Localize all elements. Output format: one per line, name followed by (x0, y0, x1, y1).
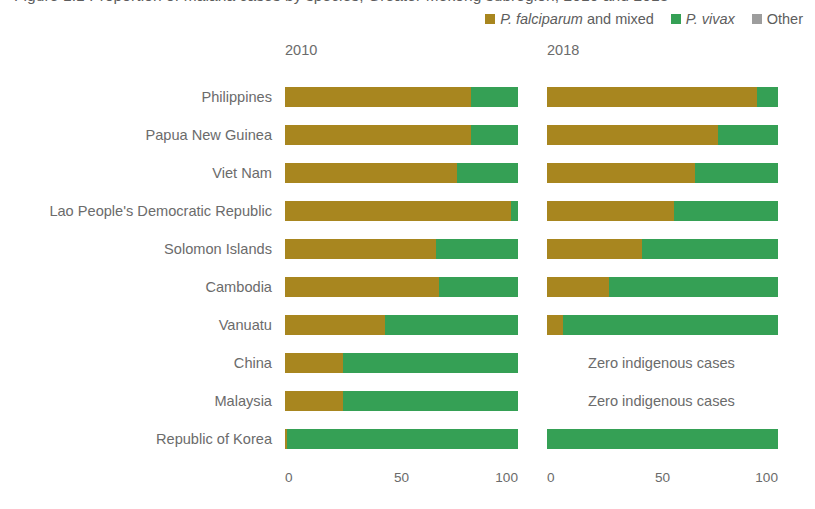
bar-segment-falciparum (547, 125, 718, 145)
bar-segment-vivax (287, 429, 518, 449)
stacked-bar-2018[interactable] (547, 429, 778, 449)
stacked-bar-2018[interactable] (547, 277, 778, 297)
bar-segment-falciparum (547, 239, 642, 259)
bar-segment-vivax (547, 429, 778, 449)
bar-segment-vivax (471, 87, 518, 107)
legend-item-other[interactable]: Other (752, 12, 803, 27)
legend-label-other: Other (767, 12, 803, 27)
bar-segment-falciparum (547, 163, 695, 183)
chart-row: Papua New Guinea (0, 116, 815, 154)
bar-segment-vivax (343, 391, 518, 411)
category-label: China (0, 344, 272, 382)
bar-segment-falciparum (285, 163, 457, 183)
legend-label-falciparum: P. falciparum and mixed (500, 12, 654, 27)
panel-year-2010: 2010 (285, 42, 317, 58)
bar-segment-vivax (674, 201, 778, 221)
stacked-bar-2018[interactable] (547, 239, 778, 259)
bar-segment-vivax (385, 315, 518, 335)
chart-row: Philippines (0, 78, 815, 116)
stacked-bar-2010[interactable] (285, 315, 518, 335)
x-axis-tick-0: 0 (285, 470, 293, 485)
bar-segment-falciparum (547, 277, 609, 297)
bar-segment-vivax (609, 277, 778, 297)
stacked-bar-2018[interactable] (547, 163, 778, 183)
stacked-bar-2018[interactable] (547, 87, 778, 107)
bar-segment-falciparum (285, 277, 439, 297)
bar-segment-falciparum (285, 125, 471, 145)
category-label: Philippines (0, 78, 272, 116)
bar-segment-falciparum (285, 353, 343, 373)
legend-swatch-falciparum-icon (485, 14, 495, 24)
bar-segment-falciparum (547, 201, 674, 221)
zero-cases-note: Zero indigenous cases (588, 391, 735, 411)
bar-segment-vivax (439, 277, 518, 297)
stacked-bar-2010[interactable] (285, 125, 518, 145)
x-axis-tick-50: 50 (655, 470, 670, 485)
chart-row: MalaysiaZero indigenous cases (0, 382, 815, 420)
legend-item-falciparum[interactable]: P. falciparum and mixed (485, 12, 654, 27)
category-label: Papua New Guinea (0, 116, 272, 154)
x-axis-2010: 050100 (285, 470, 518, 490)
stacked-bar-2018[interactable] (547, 315, 778, 335)
bar-segment-vivax (563, 315, 778, 335)
category-label: Vanuatu (0, 306, 272, 344)
stacked-bar-2010[interactable] (285, 277, 518, 297)
chart-row: Vanuatu (0, 306, 815, 344)
legend-item-vivax[interactable]: P. vivax (671, 12, 735, 27)
legend-swatch-vivax-icon (671, 14, 681, 24)
bar-segment-falciparum (285, 239, 436, 259)
figure-title-strip: Figure 1.1 Proportion of malaria cases b… (0, 0, 815, 9)
stacked-bar-2010[interactable] (285, 429, 518, 449)
legend-label-vivax: P. vivax (686, 12, 735, 27)
chart-row: Cambodia (0, 268, 815, 306)
x-axis-tick-100: 100 (755, 470, 778, 485)
bar-segment-vivax (511, 201, 518, 221)
chart-row: Lao People's Democratic Republic (0, 192, 815, 230)
bar-segment-falciparum (285, 201, 511, 221)
figure-title: Figure 1.1 Proportion of malaria cases b… (14, 0, 668, 5)
chart-row: Viet Nam (0, 154, 815, 192)
category-label: Republic of Korea (0, 420, 272, 458)
bar-segment-vivax (343, 353, 518, 373)
x-axis-tick-0: 0 (547, 470, 555, 485)
category-label: Solomon Islands (0, 230, 272, 268)
bar-segment-vivax (642, 239, 778, 259)
stacked-bar-2010[interactable] (285, 239, 518, 259)
bar-segment-falciparum (285, 87, 471, 107)
stacked-bar-2010[interactable] (285, 163, 518, 183)
bar-segment-vivax (718, 125, 778, 145)
bar-segment-falciparum (285, 315, 385, 335)
bar-segment-falciparum (547, 87, 757, 107)
bar-segment-falciparum (547, 315, 563, 335)
bar-segment-vivax (471, 125, 518, 145)
stacked-bar-2018[interactable] (547, 201, 778, 221)
bar-segment-vivax (695, 163, 778, 183)
x-axis-tick-50: 50 (394, 470, 409, 485)
category-label: Viet Nam (0, 154, 272, 192)
stacked-bar-2018[interactable] (547, 125, 778, 145)
chart-row: Republic of Korea (0, 420, 815, 458)
stacked-bar-2010[interactable] (285, 353, 518, 373)
chart-row: Solomon Islands (0, 230, 815, 268)
panel-year-2018: 2018 (547, 42, 579, 58)
zero-cases-note: Zero indigenous cases (588, 353, 735, 373)
stacked-bar-2010[interactable] (285, 87, 518, 107)
category-label: Malaysia (0, 382, 272, 420)
bar-segment-vivax (757, 87, 778, 107)
x-axis-tick-100: 100 (495, 470, 518, 485)
chart-plot-area: PhilippinesPapua New GuineaViet NamLao P… (0, 78, 815, 458)
bar-segment-falciparum (285, 391, 343, 411)
category-label: Cambodia (0, 268, 272, 306)
category-label: Lao People's Democratic Republic (0, 192, 272, 230)
bar-segment-vivax (457, 163, 518, 183)
chart-legend: P. falciparum and mixedP. vivaxOther (485, 12, 803, 27)
chart-row: ChinaZero indigenous cases (0, 344, 815, 382)
x-axis-2018: 050100 (547, 470, 778, 490)
legend-swatch-other-icon (752, 14, 762, 24)
bar-segment-vivax (436, 239, 518, 259)
stacked-bar-2010[interactable] (285, 201, 518, 221)
stacked-bar-2010[interactable] (285, 391, 518, 411)
